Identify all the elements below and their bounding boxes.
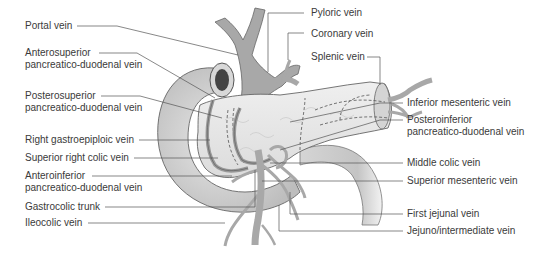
label-line: pancreatico-duodenal vein — [25, 59, 142, 71]
label-anterosuperior-pd-vein: Anterosuperior pancreatico-duodenal vein — [25, 47, 142, 71]
label-splenic-vein: Splenic vein — [311, 51, 365, 63]
label-line: Posteroinferior — [407, 114, 524, 126]
jejunum-loop — [300, 145, 382, 225]
label-line: pancreatico-duodenal vein — [407, 126, 524, 138]
label-posteroinferior-pd-vein: Posteroinferior pancreatico-duodenal vei… — [407, 114, 524, 138]
label-pyloric-vein: Pyloric vein — [311, 7, 362, 19]
label-jejuno-intermediate-vein: Jejuno/intermediate vein — [407, 225, 515, 237]
label-posterosuperior-pd-vein: Posterosuperior pancreatico-duodenal vei… — [25, 90, 142, 114]
label-anteroinferior-pd-vein: Anteroinferior pancreatico-duodenal vein — [25, 170, 142, 194]
label-right-gastroepiploic-vein: Right gastroepiploic vein — [25, 134, 134, 146]
label-ileocolic-vein: Ileocolic vein — [25, 217, 82, 229]
label-superior-right-colic-vein: Superior right colic vein — [25, 152, 129, 164]
label-gastrocolic-trunk: Gastrocolic trunk — [25, 201, 100, 213]
label-coronary-vein: Coronary vein — [311, 28, 373, 40]
label-line: Anterosuperior — [25, 47, 142, 59]
label-portal-vein: Portal vein — [25, 20, 72, 32]
label-middle-colic-vein: Middle colic vein — [407, 157, 480, 169]
label-inferior-mesenteric-vein: Inferior mesenteric vein — [407, 97, 511, 109]
label-line: pancreatico-duodenal vein — [25, 182, 142, 194]
label-line: pancreatico-duodenal vein — [25, 102, 142, 114]
label-first-jejunal-vein: First jejunal vein — [407, 208, 479, 220]
label-line: Posterosuperior — [25, 90, 142, 102]
label-line: Anteroinferior — [25, 170, 142, 182]
label-superior-mesenteric-vein: Superior mesenteric vein — [407, 175, 518, 187]
